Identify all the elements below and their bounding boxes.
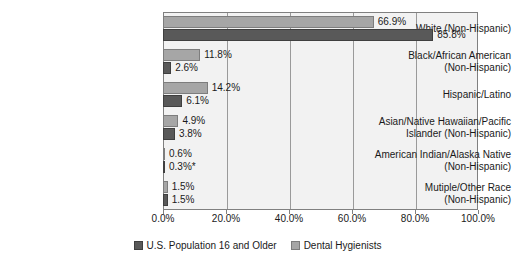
bar-value-label: 0.6% xyxy=(169,148,192,160)
bar-value-label: 4.9% xyxy=(182,115,205,127)
bar-dental-hygienists xyxy=(163,16,374,28)
x-tick-label: 100.0% xyxy=(461,213,495,224)
category-label-line: American Indian/Alaska Native xyxy=(355,149,511,161)
category-label-line: Hispanic/Latino xyxy=(355,89,511,101)
category-label-line: (Non-Hispanic) xyxy=(355,194,511,206)
bar-dental-hygienists xyxy=(163,82,208,94)
bar-dental-hygienists xyxy=(163,115,178,127)
bar-value-label: 11.8% xyxy=(204,49,232,61)
legend-swatch-light xyxy=(291,241,300,250)
x-tick-label: 0.0% xyxy=(152,213,175,224)
bar-value-label: 85.8% xyxy=(437,29,465,41)
bar-u-s-population-16-and-older xyxy=(163,29,433,41)
bar-value-label: 1.5% xyxy=(172,194,195,206)
legend-label: Dental Hygienists xyxy=(304,240,382,251)
x-tick-label: 80.0% xyxy=(401,213,429,224)
gridline-40 xyxy=(290,13,291,209)
category-label-line: Black/African American xyxy=(355,50,511,62)
category-label-line: Mutiple/Other Race xyxy=(355,182,511,194)
bar-u-s-population-16-and-older xyxy=(163,95,182,107)
x-tick-label: 20.0% xyxy=(212,213,240,224)
category-label-line: (Non-Hispanic) xyxy=(355,62,511,74)
bar-value-label: 6.1% xyxy=(186,95,209,107)
gridline-60 xyxy=(353,13,354,209)
gridline-20 xyxy=(227,13,228,209)
x-tick-label: 40.0% xyxy=(275,213,303,224)
category-label-line: Asian/Native Hawaiian/Pacific xyxy=(355,116,511,128)
category-label: Mutiple/Other Race(Non-Hispanic) xyxy=(355,182,515,205)
bar-u-s-population-16-and-older xyxy=(163,194,168,206)
bar-value-label: 14.2% xyxy=(212,82,240,94)
bar-value-label: 66.9% xyxy=(378,16,406,28)
bar-dental-hygienists xyxy=(163,49,200,61)
category-label: American Indian/Alaska Native(Non-Hispan… xyxy=(355,149,515,172)
bar-dental-hygienists xyxy=(163,181,168,193)
plot-area xyxy=(163,12,478,210)
bar-chart: White (Non-Hispanic)Black/African Americ… xyxy=(0,0,515,267)
category-label: Asian/Native Hawaiian/PacificIslander (N… xyxy=(355,116,515,139)
category-label: Hispanic/Latino xyxy=(355,89,515,101)
category-label: Black/African American(Non-Hispanic) xyxy=(355,50,515,73)
bar-u-s-population-16-and-older xyxy=(163,161,165,173)
bar-value-label: 0.3%* xyxy=(169,161,196,173)
x-tick-label: 60.0% xyxy=(338,213,366,224)
legend-item[interactable]: Dental Hygienists xyxy=(291,240,382,251)
gridline-80 xyxy=(416,13,417,209)
category-label-line: (Non-Hispanic) xyxy=(355,161,511,173)
bar-u-s-population-16-and-older xyxy=(163,128,175,140)
legend-item[interactable]: U.S. Population 16 and Older xyxy=(134,240,277,251)
bar-value-label: 3.8% xyxy=(179,128,202,140)
bar-value-label: 2.6% xyxy=(175,62,198,74)
legend-label: U.S. Population 16 and Older xyxy=(147,240,277,251)
category-label-line: Islander (Non-Hispanic) xyxy=(355,128,511,140)
legend-swatch-dark xyxy=(134,241,143,250)
chart-legend: U.S. Population 16 and OlderDental Hygie… xyxy=(0,240,515,251)
bar-value-label: 1.5% xyxy=(172,181,195,193)
bar-dental-hygienists xyxy=(163,148,165,160)
bar-u-s-population-16-and-older xyxy=(163,62,171,74)
